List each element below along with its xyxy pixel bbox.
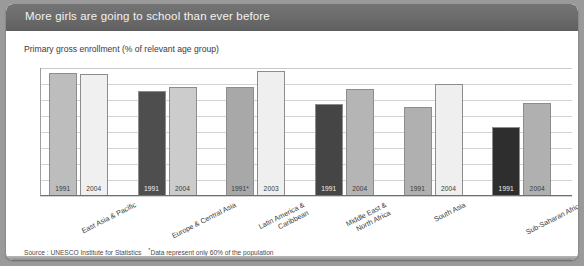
x-axis-category-label: Europe & Central Asia: [171, 201, 238, 241]
x-axis-category-label-line: Europe & Central Asia: [171, 201, 238, 241]
header-band: More girls are going to school than ever…: [6, 4, 578, 31]
chart-card: More girls are going to school than ever…: [6, 4, 578, 260]
page-title: More girls are going to school than ever…: [25, 10, 270, 22]
plot-area: 19912004199120041991*2003199120041991200…: [40, 68, 572, 196]
x-axis-category-label-line: South Asia: [433, 201, 468, 224]
x-axis-category-label: Latin America &Caribbean: [257, 201, 310, 239]
x-axis-category-label: South Asia: [433, 201, 468, 224]
x-axis-category-labels: East Asia & PacificEurope & Central Asia…: [40, 197, 576, 245]
x-axis-category-label: Middle East &North Africa: [345, 201, 392, 236]
bottom-rule: [6, 256, 578, 260]
chart-subtitle: Primary gross enrollment (% of relevant …: [24, 44, 219, 54]
x-axis-category-label-line: Sub-Saharan Africa: [524, 201, 578, 237]
footnote: Source : UNESCO Institute for Statistics…: [24, 247, 274, 256]
x-axis-category-label: Sub-Saharan Africa: [524, 201, 578, 237]
x-axis-category-label: East Asia & Pacific: [81, 201, 138, 236]
plot-frame: [40, 68, 572, 196]
x-axis-category-label-line: East Asia & Pacific: [81, 201, 138, 236]
